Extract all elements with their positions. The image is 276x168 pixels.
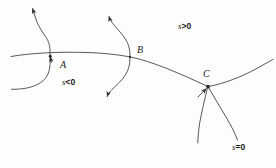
- region-value-s-positive: 0: [186, 21, 191, 31]
- point-label-b: B: [137, 45, 143, 55]
- trajectory-b-lower: [107, 58, 130, 97]
- region-value-s-zero: 0: [240, 142, 245, 152]
- trajectory-b-upper: [109, 17, 130, 57]
- region-label-s-zero: s=0: [232, 143, 245, 152]
- trajectory-c-right-descent: [209, 88, 238, 141]
- node-marker-a: [49, 55, 52, 58]
- point-label-a: A: [60, 60, 66, 70]
- node-marker-b: [129, 56, 131, 58]
- region-label-s-positive: s>0: [178, 22, 191, 31]
- trajectory-c-arrowhead: [198, 89, 206, 97]
- node-marker-c: [206, 85, 210, 89]
- main-curve: [11, 52, 208, 86]
- region-label-s-negative: s<0: [62, 78, 75, 87]
- trajectory-a-upper: [33, 9, 50, 56]
- curve-right-branch: [208, 59, 273, 86]
- point-label-c: C: [203, 69, 210, 79]
- trajectory-a-lower: [12, 57, 51, 90]
- phase-portrait-figure: A B C s>0 s<0 s=0: [0, 0, 276, 168]
- region-value-s-negative: 0: [70, 77, 75, 87]
